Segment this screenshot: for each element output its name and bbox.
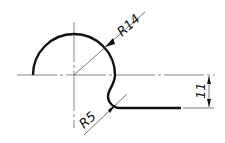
r14-arrowhead [105, 38, 115, 47]
r5-label: R5 [76, 108, 99, 131]
arrowhead-bottom [207, 99, 211, 107]
r5-dimension: R5 [76, 94, 127, 135]
r14-dimension: R14 [74, 11, 145, 75]
height-dimension: 11 [183, 76, 214, 108]
dimension-11-label: 11 [193, 82, 208, 99]
technical-drawing: R14 R5 11 [0, 0, 225, 143]
r14-label: R14 [114, 11, 143, 39]
